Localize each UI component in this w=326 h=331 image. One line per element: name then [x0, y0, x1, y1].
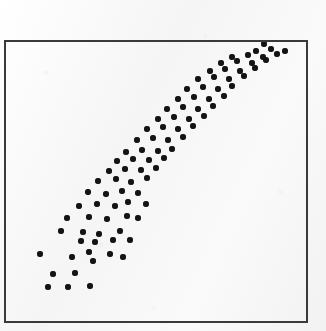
data-point: [69, 254, 75, 260]
data-point: [206, 96, 212, 102]
data-point: [50, 271, 56, 277]
data-point: [237, 68, 243, 74]
data-point: [191, 94, 197, 100]
data-point: [134, 137, 140, 143]
data-point: [180, 104, 186, 110]
data-point: [249, 60, 255, 66]
data-point: [144, 175, 150, 181]
data-point: [218, 60, 224, 66]
data-point: [153, 165, 159, 171]
data-point: [144, 126, 150, 132]
data-point: [215, 86, 221, 92]
data-point: [120, 254, 126, 260]
data-point: [221, 93, 227, 99]
data-point: [195, 76, 201, 82]
data-point: [200, 84, 206, 90]
data-point: [127, 237, 133, 243]
data-point: [107, 251, 113, 257]
data-point: [86, 214, 92, 220]
scatter-plot-figure: [0, 0, 326, 331]
data-point: [169, 146, 175, 152]
data-point: [80, 229, 86, 235]
data-point: [229, 54, 235, 60]
data-point: [130, 156, 136, 162]
data-point: [106, 168, 112, 174]
data-point: [184, 86, 190, 92]
data-point: [128, 179, 134, 185]
data-point: [76, 203, 82, 209]
data-point: [252, 65, 258, 71]
data-point: [210, 103, 216, 109]
data-point: [282, 48, 288, 54]
data-point: [195, 106, 201, 112]
data-point: [114, 158, 120, 164]
data-point: [165, 137, 171, 143]
data-point: [78, 238, 84, 244]
data-point: [65, 284, 71, 290]
data-point: [96, 231, 102, 237]
data-point: [175, 126, 181, 132]
data-point: [37, 251, 43, 257]
data-point: [58, 228, 64, 234]
data-point: [104, 216, 110, 222]
data-point: [92, 239, 98, 245]
data-point: [245, 52, 251, 58]
data-point: [260, 54, 266, 60]
data-point: [112, 203, 118, 209]
data-point: [253, 48, 259, 54]
data-point: [64, 215, 70, 221]
data-point: [274, 51, 280, 57]
data-point: [211, 74, 217, 80]
data-point: [186, 116, 192, 122]
data-point: [119, 188, 125, 194]
data-point: [122, 166, 128, 172]
data-point: [72, 270, 78, 276]
data-point: [226, 76, 232, 82]
data-point: [234, 58, 240, 64]
data-point: [143, 201, 149, 207]
data-point: [138, 167, 144, 173]
data-point: [155, 116, 161, 122]
data-point: [201, 113, 207, 119]
data-point: [123, 149, 129, 155]
data-point: [161, 155, 167, 161]
data-point: [87, 283, 93, 289]
data-point: [229, 83, 235, 89]
data-point: [94, 201, 100, 207]
data-point: [160, 124, 166, 130]
data-point: [95, 178, 101, 184]
data-point: [146, 157, 152, 163]
data-point: [171, 114, 177, 120]
data-point: [222, 66, 228, 72]
data-point: [261, 42, 267, 47]
data-point: [139, 147, 145, 153]
data-point: [125, 199, 131, 205]
data-point: [86, 249, 92, 255]
data-point: [155, 148, 161, 154]
data-point: [135, 215, 141, 221]
data-point: [207, 68, 213, 74]
plot-area: [6, 42, 306, 321]
data-point: [180, 134, 186, 140]
data-point: [110, 237, 116, 243]
data-point: [85, 189, 91, 195]
data-point: [113, 176, 119, 182]
data-point: [190, 123, 196, 129]
data-point: [117, 228, 123, 234]
plot-frame: [4, 40, 308, 323]
data-point: [124, 213, 130, 219]
data-point: [150, 135, 156, 141]
data-point: [241, 73, 247, 79]
data-point: [175, 96, 181, 102]
data-point: [135, 190, 141, 196]
data-point: [45, 284, 51, 290]
data-point: [268, 46, 274, 52]
data-point: [90, 258, 96, 264]
data-point: [164, 106, 170, 112]
data-point: [103, 191, 109, 197]
